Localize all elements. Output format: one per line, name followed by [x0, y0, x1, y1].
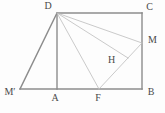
label-B: B [148, 86, 155, 97]
segment-D-H [57, 13, 128, 58]
geometry-diagram-svg: DCMHM′AFB [0, 0, 165, 113]
label-A: A [51, 92, 59, 103]
segment-D-M [57, 13, 142, 43]
segment-F-M [99, 43, 142, 89]
label-F: F [95, 92, 101, 103]
label-H: H [108, 54, 115, 65]
label-M-prime: M′ [4, 86, 15, 97]
edge-D-Mp [20, 13, 57, 89]
segment-D-F [57, 13, 99, 89]
label-D: D [44, 0, 51, 11]
geometry-figure: DCMHM′AFB [0, 0, 165, 113]
label-C: C [146, 1, 153, 12]
label-M: M [148, 34, 157, 45]
